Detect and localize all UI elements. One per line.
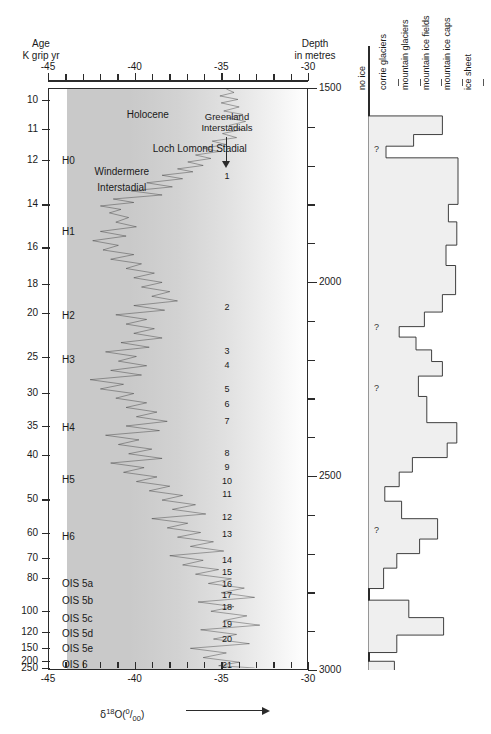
bottom-x-axis-ticks: -45-40-35-30 <box>48 670 308 694</box>
ice-column-label: mountain ice caps <box>441 17 453 90</box>
x-tick-minor-bottom <box>291 662 292 668</box>
age-tick <box>42 160 50 161</box>
x-tick-major <box>221 73 222 81</box>
interstadial-number: 1 <box>215 171 239 182</box>
stadial-label: H5 <box>62 474 75 486</box>
age-tick <box>42 426 50 427</box>
age-tick-label: 35 <box>2 420 38 432</box>
x-tick-major-bottom <box>221 662 222 670</box>
interstadial-number: 3 <box>215 346 239 357</box>
event-label: Interstadial <box>67 182 177 194</box>
depth-tick-minor <box>308 631 315 632</box>
age-tick-label: 60 <box>2 527 38 539</box>
interstadial-header-line2: Interstadials <box>179 122 275 133</box>
x-tick-minor-bottom <box>204 662 205 668</box>
depth-tick-minor <box>308 243 315 244</box>
x-tick-minor-bottom <box>65 662 66 668</box>
depth-tick-minor <box>308 166 315 167</box>
x-tick-minor <box>256 74 257 80</box>
depth-tick-major <box>308 88 317 89</box>
event-label: Windermere <box>67 166 177 178</box>
ice-column-label: corrie glaciers <box>377 34 389 90</box>
stadial-label: H3 <box>62 354 75 366</box>
interstadial-number: 5 <box>215 384 239 395</box>
age-tick-label: 50 <box>2 493 38 505</box>
stadial-label: H2 <box>62 310 75 322</box>
interstadial-number: 18 <box>215 602 239 613</box>
depth-tick-minor <box>308 398 315 399</box>
age-tick <box>42 632 50 633</box>
event-label: Loch Lomond Stadial <box>145 143 255 155</box>
left-axis-title-line1: Age <box>8 38 74 50</box>
ice-uncertainty-mark: ? <box>374 322 379 332</box>
x-tick-major <box>308 73 309 81</box>
age-tick <box>42 129 50 130</box>
depth-tick-major <box>308 476 317 477</box>
x-tick-major-bottom <box>48 662 49 670</box>
depth-tick-minor <box>308 127 315 128</box>
age-tick <box>42 611 50 612</box>
x-tick-minor <box>83 74 84 80</box>
depth-tick-major <box>308 670 317 671</box>
stadial-label: OIS 5d <box>62 628 93 640</box>
depth-tick-minor <box>308 592 315 593</box>
x-tick-major <box>48 73 49 81</box>
age-tick <box>42 284 50 285</box>
stadial-label: H4 <box>62 422 75 434</box>
stadial-label: H0 <box>62 155 75 167</box>
top-x-axis-ticks: -45-40-35-30 <box>48 66 308 88</box>
age-tick-label: 150 <box>2 642 38 654</box>
interstadial-number: 20 <box>215 634 239 645</box>
age-tick <box>42 455 50 456</box>
age-tick-label: 16 <box>2 241 38 253</box>
bottom-axis-arrow-head <box>262 707 270 715</box>
interstadial-number: 17 <box>215 590 239 601</box>
x-tick-label-bottom: -35 <box>205 673 237 685</box>
ice-column-label: no ice <box>356 66 368 90</box>
depth-tick-label: 1500 <box>319 82 341 94</box>
interstadial-number: 9 <box>215 462 239 473</box>
x-tick-minor <box>291 74 292 80</box>
stadial-label: OIS 5b <box>62 595 93 607</box>
x-tick-minor-bottom <box>152 662 153 668</box>
age-tick <box>42 393 50 394</box>
depth-tick-label: 2000 <box>319 276 341 288</box>
stadial-label: OIS 5c <box>62 613 93 625</box>
delta18o-plot: H0H1H2H3H4H5H6OIS 5aOIS 5bOIS 5cOIS 5dOI… <box>48 88 308 670</box>
ice-column-tick <box>483 79 484 86</box>
x-tick-minor-bottom <box>83 662 84 668</box>
interstadial-header-line1: Greenland <box>179 111 275 122</box>
age-tick <box>42 499 50 500</box>
stadial-label: H1 <box>62 226 75 238</box>
stadial-label: OIS 5e <box>62 643 93 655</box>
depth-tick-label: 2500 <box>319 470 341 482</box>
x-tick-label: -45 <box>32 61 64 73</box>
age-tick-label: 25 <box>2 351 38 363</box>
left-axis-title-line2: K grip yr <box>8 50 74 62</box>
age-tick-label: 12 <box>2 154 38 166</box>
interstadial-number: 12 <box>215 512 239 523</box>
interstadial-arrow-head <box>222 161 230 168</box>
x-tick-minor <box>187 74 188 80</box>
ice-column-label: mountain glaciers <box>399 19 411 90</box>
x-tick-minor <box>239 74 240 80</box>
interstadial-number: 14 <box>215 555 239 566</box>
age-axis-ticks: 1011121416182025303540506070801001201502… <box>24 88 50 670</box>
depth-axis-ticks: 1500200025003000 <box>308 88 352 670</box>
interstadial-number: 11 <box>215 489 239 500</box>
x-tick-minor-bottom <box>239 662 240 668</box>
age-tick-label: 18 <box>2 278 38 290</box>
x-tick-major <box>135 73 136 81</box>
age-tick <box>42 313 50 314</box>
x-tick-minor-bottom <box>273 662 274 668</box>
age-tick <box>42 558 50 559</box>
interstadial-header: Greenland Interstadials <box>179 111 275 133</box>
x-tick-minor <box>169 74 170 80</box>
depth-tick-minor <box>308 437 315 438</box>
right-axis-title-line2: in metres <box>280 50 350 62</box>
x-tick-minor <box>273 74 274 80</box>
ice-column-headers: no icecorrie glaciersmountain glaciersmo… <box>360 0 491 88</box>
interstadial-arrow-shaft <box>226 137 227 163</box>
x-tick-minor <box>152 74 153 80</box>
age-tick-label: 11 <box>2 123 38 135</box>
